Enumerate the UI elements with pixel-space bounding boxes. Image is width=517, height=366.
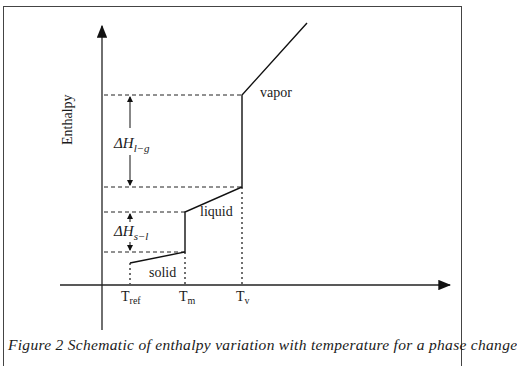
tick-base: T [179,289,188,304]
tick-t-m: Tm [179,290,195,306]
vapor-label: vapor [260,86,292,100]
delta-h-liquid-gas: ΔHl−g [114,136,150,154]
tick-sub: ref [130,295,141,306]
solid-label: solid [149,266,176,280]
tick-base: T [121,289,130,304]
enthalpy-curve [130,23,307,263]
delta-h-solid-liquid: ΔHs−l [114,224,148,242]
delta-h-sub: l−g [134,142,150,154]
figure-caption: Figure 2 Schematic of enthalpy variation… [8,336,517,354]
tick-t-v: Tv [236,290,250,306]
y-axis-label: Enthalpy [60,94,76,145]
delta-h-base: ΔH [114,135,134,151]
tick-sub: m [188,295,196,306]
delta-h-base: ΔH [114,223,134,239]
tick-t-ref: Tref [121,290,141,306]
delta-h-sub: s−l [134,230,149,242]
tick-sub: v [245,295,250,306]
tick-base: T [236,289,245,304]
liquid-label: liquid [200,205,233,219]
